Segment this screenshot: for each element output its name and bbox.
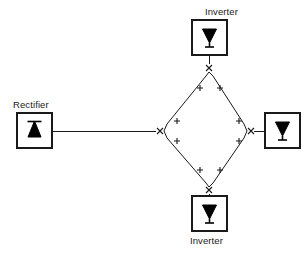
breaker-nw-lower: [174, 118, 180, 124]
fork-south: [206, 183, 213, 187]
junction-east: [248, 128, 254, 134]
link-ring-ne: [213, 76, 244, 124]
breaker-se-lower: [217, 167, 223, 173]
inverter-top-node[interactable]: [192, 20, 227, 55]
converter-network-diagram: Inverter Rectifier Inverter: [0, 0, 307, 257]
diagram-canvas: [0, 0, 307, 257]
link-ring-nw: [167, 76, 206, 124]
inverter-top-label: Inverter: [205, 7, 238, 17]
inverter-bottom-node[interactable]: [192, 196, 227, 231]
junction-south: [206, 187, 212, 193]
junction-west: [157, 128, 163, 134]
breaker-markers: [174, 85, 242, 173]
rectifier-label: Rectifier: [13, 100, 49, 110]
breaker-sw-lower: [197, 167, 203, 173]
fork-east: [244, 124, 247, 138]
inverter-bottom-label: Inverter: [190, 236, 223, 246]
rectifier-node[interactable]: [17, 113, 52, 148]
ring-wires: [164, 72, 247, 187]
link-ring-se: [213, 138, 244, 183]
fork-north: [206, 72, 213, 76]
inverter-right-node[interactable]: [265, 113, 300, 148]
breaker-se-upper: [236, 138, 242, 144]
breaker-sw-upper: [174, 138, 180, 144]
junction-markers: [157, 65, 254, 193]
junction-north: [206, 65, 212, 71]
link-ring-sw: [167, 138, 206, 183]
fork-west: [164, 124, 167, 138]
radial-wires: [52, 55, 265, 196]
